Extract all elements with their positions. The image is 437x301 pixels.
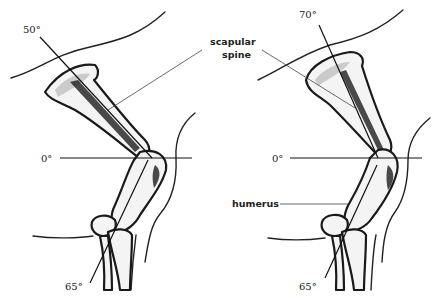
right-panel: 70° 0° 65° (258, 9, 430, 292)
right-elbow-outline (268, 238, 325, 240)
left-panel: 50° 0° 65° (11, 12, 195, 292)
right-ulna-bone (332, 236, 344, 290)
scapular-spine-leader-left (108, 50, 202, 110)
right-scapula-angle-label: 70° (299, 9, 317, 20)
right-radius-bone (342, 229, 366, 290)
forelimb-angle-diagram: 50° 0° 65° scapular spine 70° 0° 65° (0, 0, 437, 301)
left-elbow-outline (33, 236, 93, 238)
right-leg-outline (371, 235, 376, 290)
left-scapula-angle-label: 50° (23, 24, 41, 35)
right-horizontal-angle-label: 0° (272, 153, 283, 164)
scapular-spine-label-line2: spine (222, 49, 251, 60)
scapular-spine-label-line1: scapular (210, 36, 256, 47)
left-scapula-spine-shade (70, 80, 140, 152)
left-lower-angle-label: 65° (65, 281, 83, 292)
right-lower-angle-label: 65° (299, 281, 317, 292)
left-horizontal-angle-label: 0° (41, 153, 52, 164)
humerus-label: humerus (232, 198, 279, 209)
